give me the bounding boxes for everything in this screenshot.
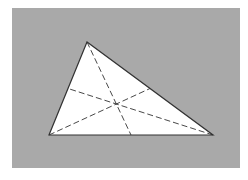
triangle-medians-diagram [0,0,248,180]
